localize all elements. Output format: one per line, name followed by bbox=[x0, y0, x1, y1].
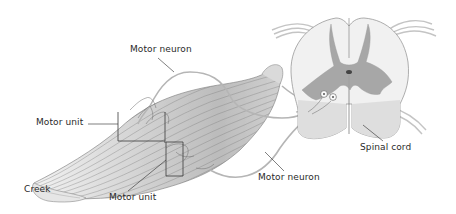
spinal-cord bbox=[272, 18, 436, 139]
label-motor-neuron-bottom: Motor neuron bbox=[258, 172, 320, 183]
label-motor-unit-left: Motor unit bbox=[36, 117, 83, 128]
label-motor-neuron-top: Motor neuron bbox=[130, 44, 192, 55]
label-spinal-cord: Spinal cord bbox=[360, 142, 411, 153]
diagram-illustration bbox=[0, 0, 456, 214]
label-motor-unit-bottom: Motor unit bbox=[109, 192, 156, 203]
label-creek: Creek bbox=[24, 184, 51, 195]
